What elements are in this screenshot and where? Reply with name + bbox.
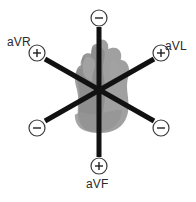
lead-label-avf: aVF: [86, 178, 109, 190]
marker-upper-left-positive: [29, 45, 45, 61]
hexaxial-reference-diagram: aVR aVL aVF: [0, 0, 196, 202]
marker-bottom-positive: [91, 158, 107, 174]
marker-lower-left-negative: [29, 120, 45, 136]
lead-label-avl: aVL: [165, 40, 187, 52]
marker-lower-right-negative: [153, 120, 169, 136]
hexaxial-diagram-canvas: [0, 0, 196, 202]
axis-lines: [45, 27, 154, 157]
lead-label-avr: aVR: [7, 36, 31, 48]
marker-top-negative: [91, 10, 107, 26]
